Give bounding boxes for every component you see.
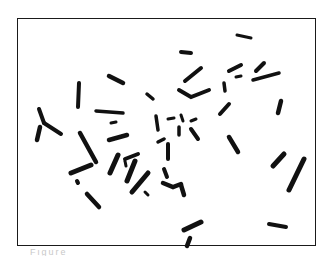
chromosome-spread — [1, 1, 328, 256]
micrograph-frame — [17, 18, 316, 246]
figure-page: Figure — [0, 0, 328, 256]
figure-caption: Figure — [30, 249, 68, 256]
